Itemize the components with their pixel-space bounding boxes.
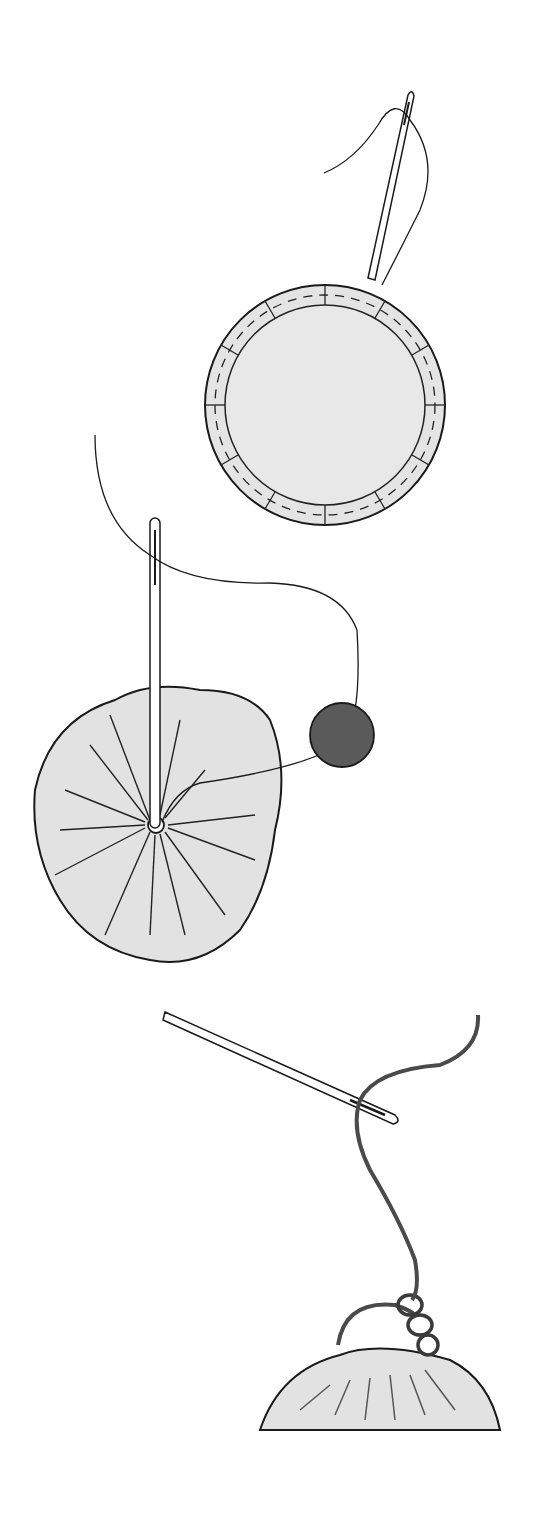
step-2-needle-icon <box>150 518 160 828</box>
step-1-fabric-circle <box>205 285 445 525</box>
sewing-illustration <box>0 0 537 1514</box>
bead-icon <box>310 703 374 767</box>
step-3-needle-icon <box>163 1012 398 1124</box>
step-3-gathered-top <box>260 1295 500 1430</box>
step-3-thread <box>357 1015 478 1300</box>
step-1-needle-icon <box>368 92 414 280</box>
